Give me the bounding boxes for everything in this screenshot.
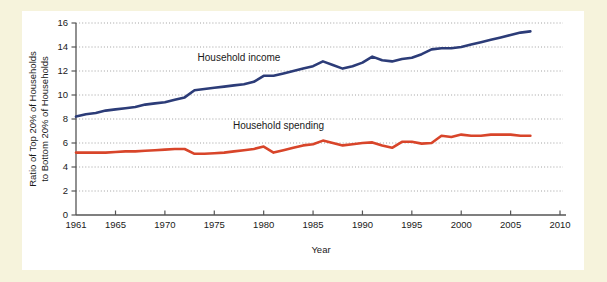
line-chart: 0246810121416 19611965197019751980198519… xyxy=(0,0,607,282)
x-tick-label-2005: 2005 xyxy=(500,219,521,230)
x-tick-label-1985: 1985 xyxy=(302,219,323,230)
y-axis-tick-labels: 0246810121416 xyxy=(57,17,68,220)
series-label-household-income: Household income xyxy=(198,52,281,63)
y-axis-title-line1: Ratio of Top 20% of Households xyxy=(27,51,38,187)
x-tick-label-1961: 1961 xyxy=(65,219,86,230)
x-tick-label-1965: 1965 xyxy=(105,219,126,230)
y-tick-label-12: 12 xyxy=(57,65,68,76)
x-tick-label-1970: 1970 xyxy=(154,219,175,230)
y-tick-label-2: 2 xyxy=(63,185,68,196)
y-tick-label-4: 4 xyxy=(63,161,68,172)
series-line-household-spending xyxy=(76,135,530,154)
y-tick-label-14: 14 xyxy=(57,41,68,52)
series-label-household-spending: Household spending xyxy=(233,120,324,131)
x-tick-label-1975: 1975 xyxy=(204,219,225,230)
gridlines xyxy=(76,23,563,191)
y-axis-title: Ratio of Top 20% of Households to Bottom… xyxy=(27,51,50,187)
figure-container: 0246810121416 19611965197019751980198519… xyxy=(0,0,607,282)
data-series-group xyxy=(76,31,530,153)
x-axis-title: Year xyxy=(311,244,330,255)
x-tick-label-1995: 1995 xyxy=(401,219,422,230)
y-tick-label-16: 16 xyxy=(57,17,68,28)
x-tick-label-2000: 2000 xyxy=(451,219,472,230)
y-tick-label-6: 6 xyxy=(63,137,68,148)
x-tick-label-1990: 1990 xyxy=(352,219,373,230)
series-line-household-income xyxy=(76,31,530,116)
y-tick-label-10: 10 xyxy=(57,89,68,100)
x-tick-label-1980: 1980 xyxy=(253,219,274,230)
y-axis-title-line2: to Bottom 20% of Households xyxy=(39,56,50,182)
y-axis-ticks xyxy=(72,23,77,215)
y-tick-label-8: 8 xyxy=(63,113,68,124)
x-axis-tick-labels: 1961196519701975198019851990199520002005… xyxy=(65,219,570,230)
x-tick-label-2010: 2010 xyxy=(549,219,570,230)
x-axis-ticks xyxy=(116,211,560,216)
